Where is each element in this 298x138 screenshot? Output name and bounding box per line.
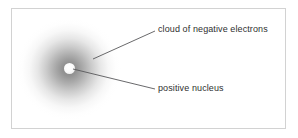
atom-diagram-figure: cloud of negative electrons positive nuc… bbox=[0, 0, 298, 138]
nucleus-shape bbox=[64, 63, 75, 74]
label-positive-nucleus: positive nucleus bbox=[158, 83, 224, 94]
label-electron-cloud: cloud of negative electrons bbox=[158, 24, 268, 35]
